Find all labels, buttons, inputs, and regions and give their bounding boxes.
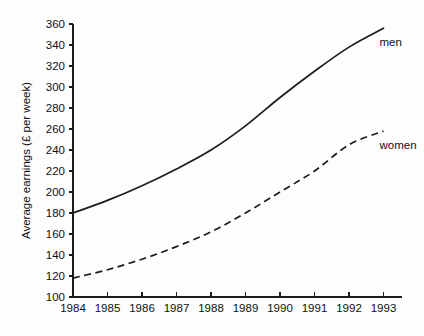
y-tick-label-120: 120	[46, 270, 65, 282]
x-tick-label-1989: 1989	[233, 302, 259, 314]
chart-figure: 1001201401601802002202402602803003203403…	[0, 0, 424, 336]
x-tick-label-1987: 1987	[164, 302, 190, 314]
x-tick-label-1991: 1991	[302, 302, 328, 314]
x-axis-tick-labels: 1984198519861987198819891990199119921993	[60, 302, 396, 314]
series-line-men	[73, 28, 384, 213]
x-tick-label-1988: 1988	[198, 302, 224, 314]
y-tick-label-180: 180	[46, 207, 65, 219]
y-tick-label-320: 320	[46, 60, 65, 72]
x-tick-label-1985: 1985	[95, 302, 121, 314]
axes-group	[73, 24, 402, 297]
x-tick-label-1984: 1984	[60, 302, 86, 314]
y-axis-ticks	[69, 24, 74, 297]
x-axis-ticks	[108, 292, 384, 297]
series-line-women	[73, 131, 384, 278]
x-tick-label-1992: 1992	[336, 302, 362, 314]
y-axis-tick-labels: 1001201401601802002202402602803003203403…	[46, 18, 65, 303]
x-tick-label-1986: 1986	[129, 302, 155, 314]
y-tick-label-280: 280	[46, 102, 65, 114]
y-tick-label-300: 300	[46, 81, 65, 93]
y-tick-label-200: 200	[46, 186, 65, 198]
series-label-women: women	[379, 139, 417, 151]
x-tick-label-1993: 1993	[371, 302, 397, 314]
series-inline-labels: menwomen	[379, 36, 417, 151]
y-tick-label-140: 140	[46, 249, 65, 261]
line-chart-canvas: 1001201401601802002202402602803003203403…	[0, 0, 424, 336]
y-tick-label-260: 260	[46, 123, 65, 135]
y-tick-label-220: 220	[46, 165, 65, 177]
y-tick-label-360: 360	[46, 18, 65, 30]
y-axis-title: Average earnings (£ per week)	[20, 82, 32, 239]
data-series-group	[73, 28, 384, 278]
x-tick-label-1990: 1990	[267, 302, 293, 314]
y-tick-label-340: 340	[46, 39, 65, 51]
y-tick-label-240: 240	[46, 144, 65, 156]
y-tick-label-160: 160	[46, 228, 65, 240]
series-label-men: men	[380, 36, 402, 48]
